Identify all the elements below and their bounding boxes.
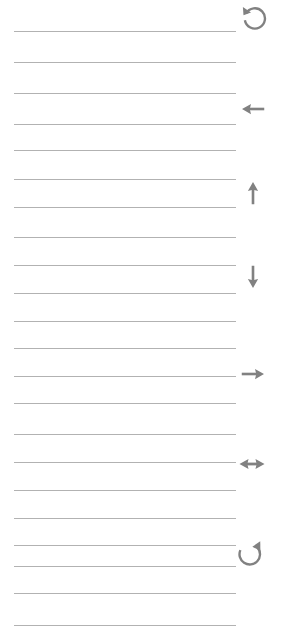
rule-line	[14, 545, 236, 546]
rule-line	[14, 237, 236, 238]
rule-line	[14, 31, 236, 32]
arrow-left-icon	[238, 94, 268, 124]
rule-line	[14, 462, 236, 463]
rule-line	[14, 376, 236, 377]
rotate-left-icon	[239, 2, 269, 32]
rule-line	[14, 625, 236, 626]
rule-line	[14, 434, 236, 435]
rule-line	[14, 62, 236, 63]
rule-line	[14, 150, 236, 151]
arrow-right-icon	[238, 359, 268, 389]
note-sheet-page	[0, 0, 288, 633]
arrow-left-right-icon	[236, 448, 268, 480]
rule-line	[14, 124, 236, 125]
rule-line	[14, 593, 236, 594]
rotate-right-icon	[234, 536, 264, 566]
rule-line	[14, 293, 236, 294]
rule-line	[14, 93, 236, 94]
rule-line	[14, 207, 236, 208]
rule-line	[14, 566, 236, 567]
rule-line	[14, 348, 236, 349]
arrow-up-icon	[238, 178, 268, 208]
rule-line	[14, 403, 236, 404]
rule-line	[14, 179, 236, 180]
rule-line	[14, 490, 236, 491]
rule-line	[14, 518, 236, 519]
rule-line	[14, 321, 236, 322]
arrow-down-icon	[238, 262, 268, 292]
rule-line	[14, 265, 236, 266]
